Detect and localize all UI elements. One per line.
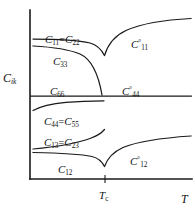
curve-c44-c55 xyxy=(33,101,104,111)
y-axis-label: Cik xyxy=(3,69,16,85)
label-c66-subscript: 66 xyxy=(57,91,64,99)
plot-canvas xyxy=(0,0,195,211)
elastic-constants-figure: Cik T Tc C11=C22 C33 C°11 C66 C°44 C44=C… xyxy=(0,0,195,211)
curve-c12-zero xyxy=(105,136,192,167)
tc-tick-label: Tc xyxy=(99,186,108,203)
label-c44-c55-symbol2: C xyxy=(64,115,71,127)
y-axis-symbol: C xyxy=(3,71,11,85)
label-c12-zero-subscript: 12 xyxy=(140,161,147,169)
label-c12-subscript: 12 xyxy=(65,169,72,177)
label-c12-zero: C°12 xyxy=(130,152,147,169)
label-c13-c23-subscript2: 23 xyxy=(72,142,79,150)
x-axis-symbol: T xyxy=(181,192,188,206)
curve-c33 xyxy=(33,46,102,95)
y-axis-subscript: ik xyxy=(11,77,16,86)
label-c11-c22: C11=C22 xyxy=(45,30,79,47)
label-c11-zero-subscript: 11 xyxy=(141,44,148,52)
label-c33-subscript: 33 xyxy=(60,61,67,69)
label-c66: C66 xyxy=(50,82,64,99)
label-c44-c55-subscript2: 55 xyxy=(72,121,79,129)
label-c13-c23-symbol2: C xyxy=(64,136,71,148)
label-c11-c22-subscript2: 22 xyxy=(72,39,79,47)
label-c33: C33 xyxy=(53,52,67,69)
label-c44-zero: C°44 xyxy=(122,82,139,99)
tc-subscript: c xyxy=(105,195,108,203)
x-axis-label: T xyxy=(181,190,188,206)
label-c44-zero-subscript: 44 xyxy=(132,91,139,99)
label-c44-c55: C44=C55 xyxy=(44,112,79,129)
label-c12: C12 xyxy=(58,160,72,177)
label-c13-c23: C13=C23 xyxy=(44,133,79,150)
label-c11-zero: C°11 xyxy=(131,35,148,52)
